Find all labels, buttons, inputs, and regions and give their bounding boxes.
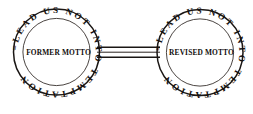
connecting-bar	[97, 47, 160, 57]
former-motto-medallion: =LEAD US NOT INTO TEMPTATION FORMER MOTT…	[9, 5, 104, 100]
revised-motto-medallion: =LEAD US NOT INTO TEMPTATION REVISED MOT…	[153, 5, 248, 100]
left-center-label: FORMER MOTTO	[26, 48, 91, 57]
medallion-illustration: =LEAD US NOT INTO TEMPTATION FORMER MOTT…	[0, 0, 253, 114]
medallion-diagram: =LEAD US NOT INTO TEMPTATION FORMER MOTT…	[0, 0, 253, 114]
right-center-label: REVISED MOTTO	[169, 48, 234, 57]
